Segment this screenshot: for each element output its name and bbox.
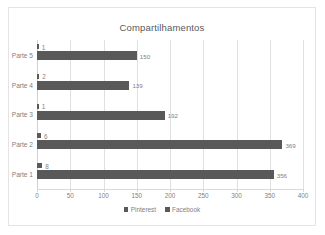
bar-facebook-parte-3: 192 <box>37 111 165 120</box>
chart-container: Compartilhamentos Parte 5 1 150 Parte 4 … <box>8 7 316 226</box>
tick-label-250: 250 <box>198 192 209 199</box>
bar-pinterest-parte-5: 1 <box>37 44 39 49</box>
bar-facebook-parte-5: 150 <box>37 51 137 60</box>
bar-value-pinterest-parte-2: 6 <box>44 132 48 139</box>
tick-label-0: 0 <box>35 192 39 199</box>
category-label-parte-2: Parte 2 <box>12 141 33 148</box>
bar-value-facebook-parte-1: 356 <box>277 171 287 178</box>
bar-pinterest-parte-4: 2 <box>37 74 39 79</box>
bar-value-facebook-parte-4: 139 <box>132 82 142 89</box>
bar-facebook-parte-2: 369 <box>37 140 282 149</box>
bar-group-parte-3: Parte 3 1 192 <box>37 100 303 130</box>
category-label-parte-1: Parte 1 <box>12 171 33 178</box>
chart-legend: Pinterest Facebook <box>9 206 315 213</box>
tick-label-350: 350 <box>264 192 275 199</box>
square-marker-icon-facebook <box>165 207 170 212</box>
bar-facebook-parte-4: 139 <box>37 81 129 90</box>
bar-group-parte-1: Parte 1 8 356 <box>37 159 303 189</box>
category-label-parte-5: Parte 5 <box>12 51 33 58</box>
tick-label-150: 150 <box>131 192 142 199</box>
bar-pinterest-parte-3: 1 <box>37 104 39 109</box>
bar-facebook-parte-1: 356 <box>37 170 274 179</box>
bar-value-pinterest-parte-1: 8 <box>45 162 49 169</box>
tick-label-100: 100 <box>98 192 109 199</box>
bar-value-facebook-parte-3: 192 <box>168 112 178 119</box>
bar-value-pinterest-parte-4: 2 <box>42 73 46 80</box>
category-label-parte-3: Parte 3 <box>12 111 33 118</box>
legend-label-facebook: Facebook <box>172 206 200 213</box>
gridline-400 <box>303 40 304 189</box>
category-label-parte-4: Parte 4 <box>12 81 33 88</box>
legend-entry-pinterest[interactable]: Pinterest <box>124 206 156 213</box>
bar-value-pinterest-parte-3: 1 <box>42 103 46 110</box>
legend-label-pinterest: Pinterest <box>131 206 156 213</box>
bar-group-parte-2: Parte 2 6 369 <box>37 129 303 159</box>
bar-value-facebook-parte-5: 150 <box>140 52 150 59</box>
plot-area: Parte 5 1 150 Parte 4 2 139 Parte 3 1 <box>37 40 303 189</box>
bar-value-pinterest-parte-5: 1 <box>42 43 46 50</box>
square-marker-icon-pinterest <box>124 207 129 212</box>
bar-value-facebook-parte-2: 369 <box>285 141 295 148</box>
bar-group-parte-5: Parte 5 1 150 <box>37 40 303 70</box>
bar-pinterest-parte-2: 6 <box>37 133 41 138</box>
bar-pinterest-parte-1: 8 <box>37 163 42 168</box>
chart-title: Compartilhamentos <box>9 22 315 33</box>
tick-label-400: 400 <box>298 192 309 199</box>
tick-label-200: 200 <box>165 192 176 199</box>
tick-label-300: 300 <box>231 192 242 199</box>
bar-group-parte-4: Parte 4 2 139 <box>37 70 303 100</box>
legend-entry-facebook[interactable]: Facebook <box>165 206 200 213</box>
tick-label-50: 50 <box>67 192 74 199</box>
